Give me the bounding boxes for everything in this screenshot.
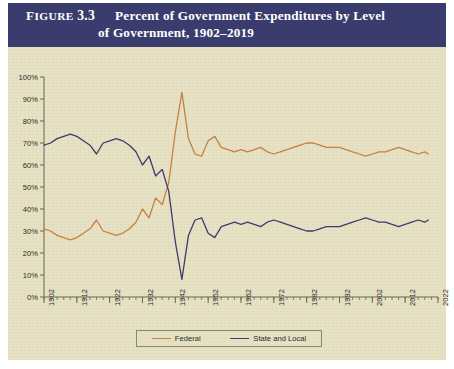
series-line-federal <box>44 92 428 239</box>
figure-title-line-1: FIGURE 3.3 Percent of Government Expendi… <box>26 8 432 25</box>
legend-swatch <box>230 338 249 339</box>
figure-label-rest: IGURE <box>34 10 73 22</box>
figure-number: 3.3 <box>77 8 95 23</box>
axes-layer <box>40 77 438 303</box>
legend-label: Federal <box>175 334 201 343</box>
series-layer <box>44 92 428 279</box>
series-line-state-and-local <box>44 134 428 279</box>
figure-title-band: FIGURE 3.3 Percent of Government Expendi… <box>8 3 446 47</box>
legend-swatch <box>152 338 171 339</box>
figure-title-text-2: of Government, 1902–2019 <box>98 25 254 40</box>
chart-plot <box>8 47 446 360</box>
legend-item[interactable]: Federal <box>152 334 201 343</box>
figure-title-text-1: Percent of Government Expenditures by Le… <box>115 8 385 23</box>
figure-label: FIGURE <box>26 10 74 22</box>
chart-container: 0%10%20%30%40%50%60%70%80%90%100% 190219… <box>8 47 446 360</box>
figure-title-line-2: of Government, 1902–2019 <box>26 25 432 42</box>
figure-root: FIGURE 3.3 Percent of Government Expendi… <box>0 0 454 369</box>
chart-legend: FederalState and Local <box>136 330 322 347</box>
legend-item[interactable]: State and Local <box>230 334 306 343</box>
legend-label: State and Local <box>253 334 306 343</box>
